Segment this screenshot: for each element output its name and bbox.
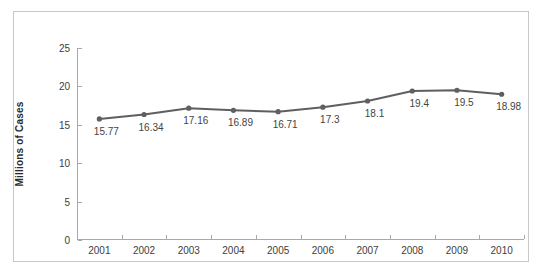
x-axis-tick [345,235,346,239]
plot-area [77,48,524,240]
x-axis-tick-label: 2007 [356,245,378,256]
data-point-marker[interactable] [454,88,459,93]
y-axis-tick-label: 20 [59,81,70,92]
data-point-marker[interactable] [231,108,236,113]
series-line [99,90,501,119]
x-axis-tick [390,235,391,239]
data-point-marker[interactable] [410,88,415,93]
x-axis-tick-label: 2010 [491,245,513,256]
data-point-marker[interactable] [186,106,191,111]
x-axis-tick [122,235,123,239]
data-point-label: 17.3 [320,114,339,125]
data-point-label: 16.89 [228,117,253,128]
y-axis-tick-label: 5 [64,196,70,207]
x-axis-tick [479,235,480,239]
data-point-label: 18.1 [365,108,384,119]
x-axis-tick [524,235,525,239]
x-axis-tick [77,235,78,239]
x-axis-tick [166,235,167,239]
y-axis-tick [78,86,82,87]
data-point-marker[interactable] [276,109,281,114]
y-axis-tick-label: 10 [59,158,70,169]
x-axis-tick [211,235,212,239]
data-point-marker[interactable] [320,105,325,110]
x-axis-tick [435,235,436,239]
x-axis-tick-label: 2006 [312,245,334,256]
x-axis-tick [256,235,257,239]
data-point-label: 17.16 [183,115,208,126]
x-axis-tick-label: 2003 [178,245,200,256]
data-point-marker[interactable] [141,112,146,117]
data-point-marker[interactable] [97,116,102,121]
y-axis-tick [78,163,82,164]
y-axis-tick-label: 15 [59,119,70,130]
chart-frame: Millions of Cases 0510152025 20012002200… [13,11,529,262]
data-point-label: 16.71 [273,119,298,130]
x-axis-tick-label: 2009 [446,245,468,256]
data-point-marker[interactable] [365,98,370,103]
y-axis-tick [78,125,82,126]
x-axis-tick-label: 2004 [222,245,244,256]
x-axis-tick [301,235,302,239]
y-axis-tick [78,240,82,241]
x-axis-tick-label: 2001 [88,245,110,256]
x-axis-tick-label: 2008 [401,245,423,256]
y-axis-tick [78,48,82,49]
data-point-label: 15.77 [94,126,119,137]
y-axis-tick-label: 0 [64,235,70,246]
data-point-label: 19.5 [454,97,473,108]
series-line-chart [77,48,524,240]
x-axis-tick-label: 2005 [267,245,289,256]
y-axis-tick-labels: 0510152025 [14,48,70,240]
data-point-label: 18.98 [496,101,521,112]
data-point-marker[interactable] [499,92,504,97]
data-point-label: 16.34 [139,122,164,133]
y-axis-tick-label: 25 [59,43,70,54]
y-axis-tick [78,202,82,203]
data-point-label: 19.4 [410,98,429,109]
x-axis-tick-label: 2002 [133,245,155,256]
